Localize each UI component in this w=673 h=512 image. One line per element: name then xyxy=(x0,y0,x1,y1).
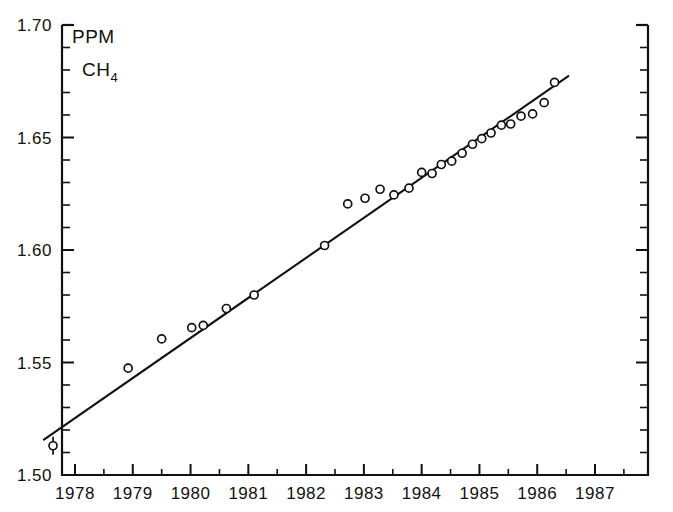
data-point xyxy=(158,335,166,343)
x-tick-label: 1983 xyxy=(344,484,384,503)
data-point-markers xyxy=(49,78,559,449)
data-point xyxy=(418,168,426,176)
data-point xyxy=(188,324,196,332)
y-tick-label: 1.55 xyxy=(17,354,52,373)
y-axis-ticks xyxy=(62,25,648,475)
data-point xyxy=(199,321,207,329)
data-point xyxy=(344,200,352,208)
data-point xyxy=(376,185,384,193)
data-point xyxy=(529,110,537,118)
y-tick-label: 1.65 xyxy=(17,129,52,148)
x-tick-label: 1985 xyxy=(460,484,500,503)
y-tick-label: 1.50 xyxy=(17,466,52,485)
axis-frame-path xyxy=(62,25,648,475)
x-tick-label: 1981 xyxy=(228,484,268,503)
data-point xyxy=(390,191,398,199)
data-point xyxy=(361,194,369,202)
x-tick-label: 1979 xyxy=(113,484,153,503)
data-point xyxy=(49,442,57,450)
unit-annotation: PPM xyxy=(72,26,115,47)
x-tick-label: 1982 xyxy=(286,484,326,503)
x-tick-label: 1987 xyxy=(575,484,615,503)
x-axis-ticks xyxy=(75,464,624,475)
chart-svg: 1978197919801981198219831984198519861987… xyxy=(0,0,673,512)
y-tick-label: 1.60 xyxy=(17,241,52,260)
x-tick-label: 1978 xyxy=(55,484,95,503)
y-tick-label: 1.70 xyxy=(17,16,52,35)
y-axis-tick-labels: 1.501.551.601.651.70 xyxy=(17,16,52,485)
ch4-trend-chart: 1978197919801981198219831984198519861987… xyxy=(0,0,673,512)
species-annotation-subscript: 4 xyxy=(110,70,118,85)
data-point xyxy=(250,291,258,299)
species-annotation: CH4 xyxy=(82,59,118,85)
data-point xyxy=(458,149,466,157)
data-point xyxy=(517,112,525,120)
data-point xyxy=(469,140,477,148)
data-point xyxy=(437,161,445,169)
x-axis-tick-labels: 1978197919801981198219831984198519861987 xyxy=(55,484,615,503)
x-tick-label: 1980 xyxy=(171,484,211,503)
data-point xyxy=(428,170,436,178)
axes-frame xyxy=(62,25,648,475)
data-point xyxy=(124,364,132,372)
data-point xyxy=(497,121,505,129)
x-tick-label: 1986 xyxy=(517,484,557,503)
species-annotation-base: CH xyxy=(82,59,110,80)
data-point xyxy=(478,135,486,143)
data-point xyxy=(321,242,329,250)
data-point xyxy=(540,99,548,107)
data-point xyxy=(448,157,456,165)
data-point xyxy=(222,305,230,313)
data-point xyxy=(507,120,515,128)
data-point xyxy=(487,129,495,137)
data-point xyxy=(405,184,413,192)
data-point xyxy=(551,78,559,86)
x-tick-label: 1984 xyxy=(402,484,442,503)
